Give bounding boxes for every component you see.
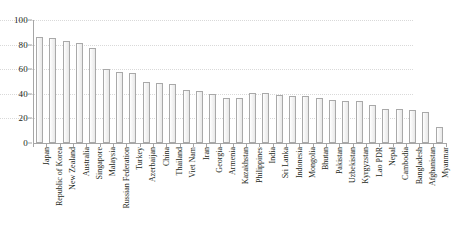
x-label-slot: Afghanistan bbox=[419, 147, 432, 242]
bar[interactable] bbox=[196, 91, 203, 143]
bar[interactable] bbox=[223, 98, 230, 144]
x-label-slot: Indonesia bbox=[286, 147, 299, 242]
x-label-slot: Cambodia bbox=[393, 147, 406, 242]
x-label-slot: Viet Nam bbox=[180, 147, 193, 242]
x-label-slot: Uzbekistan bbox=[339, 147, 352, 242]
y-tick-label: 0 bbox=[0, 138, 28, 148]
bar[interactable] bbox=[129, 73, 136, 143]
bar[interactable] bbox=[209, 94, 216, 143]
bar[interactable] bbox=[409, 110, 416, 143]
x-label-slot: Armenia bbox=[220, 147, 233, 242]
bar-slot bbox=[73, 20, 86, 143]
bar-slot bbox=[193, 20, 206, 143]
bar-slot bbox=[166, 20, 179, 143]
bar-slot bbox=[86, 20, 99, 143]
bar-slot bbox=[140, 20, 153, 143]
bar[interactable] bbox=[169, 84, 176, 143]
x-label-slot: Lao PDR bbox=[366, 147, 379, 242]
bar[interactable] bbox=[289, 96, 296, 143]
x-label-slot: Pakistan bbox=[326, 147, 339, 242]
bar-slot bbox=[339, 20, 352, 143]
x-label-slot: Iran bbox=[193, 147, 206, 242]
bar-slot bbox=[392, 20, 405, 143]
bar[interactable] bbox=[116, 72, 123, 143]
bar-slot bbox=[233, 20, 246, 143]
bar-slot bbox=[353, 20, 366, 143]
bar[interactable] bbox=[302, 96, 309, 143]
bar[interactable] bbox=[49, 38, 56, 143]
bar[interactable] bbox=[329, 100, 336, 143]
x-label-slot: Bhutan bbox=[313, 147, 326, 242]
y-tick-label: 60 bbox=[0, 64, 28, 74]
bar-slot bbox=[299, 20, 312, 143]
y-tick-mark bbox=[28, 143, 32, 144]
y-tick-label: 20 bbox=[0, 113, 28, 123]
bar-slot bbox=[46, 20, 59, 143]
x-label-slot: Bangladesh bbox=[406, 147, 419, 242]
bar[interactable] bbox=[276, 95, 283, 143]
x-label-slot: India bbox=[259, 147, 272, 242]
x-label-slot: Georgia bbox=[206, 147, 219, 242]
bar-slot bbox=[286, 20, 299, 143]
x-axis-labels: JapanRepublic of KoreaNew ZealandAustral… bbox=[33, 147, 446, 242]
x-label-slot: Mongolia bbox=[299, 147, 312, 242]
bar[interactable] bbox=[89, 48, 96, 143]
bar[interactable] bbox=[342, 101, 349, 143]
bar[interactable] bbox=[63, 41, 70, 143]
x-label-slot: New Zealand bbox=[60, 147, 73, 242]
bar-slot bbox=[153, 20, 166, 143]
x-label-slot: Singapore bbox=[86, 147, 99, 242]
bar-slot bbox=[419, 20, 432, 143]
bar-slot bbox=[326, 20, 339, 143]
bar[interactable] bbox=[262, 93, 269, 143]
y-tick-mark bbox=[28, 44, 32, 45]
y-tick-label: 80 bbox=[0, 40, 28, 50]
bar[interactable] bbox=[143, 82, 150, 144]
bar-slot bbox=[113, 20, 126, 143]
bar[interactable] bbox=[422, 112, 429, 143]
x-label-slot: Malaysia bbox=[100, 147, 113, 242]
bar[interactable] bbox=[396, 109, 403, 143]
bar[interactable] bbox=[436, 127, 443, 143]
x-label-slot: Australia bbox=[73, 147, 86, 242]
x-label-slot: Philippines bbox=[246, 147, 259, 242]
bar[interactable] bbox=[236, 98, 243, 144]
bar-slot bbox=[313, 20, 326, 143]
bar[interactable] bbox=[36, 37, 43, 143]
x-tick-label: Myanmar bbox=[439, 147, 452, 178]
y-tick-mark bbox=[28, 93, 32, 94]
x-label-slot: Nepal bbox=[379, 147, 392, 242]
bar-slot bbox=[366, 20, 379, 143]
bar-slot bbox=[33, 20, 46, 143]
x-label-slot: Kazakhstan bbox=[233, 147, 246, 242]
bar-slot bbox=[246, 20, 259, 143]
bar-series bbox=[33, 20, 446, 143]
x-label-slot: Azerbaijan bbox=[140, 147, 153, 242]
bar-chart: 020406080100 JapanRepublic of KoreaNew Z… bbox=[0, 0, 452, 244]
bar-slot bbox=[100, 20, 113, 143]
bar-slot bbox=[273, 20, 286, 143]
bar[interactable] bbox=[183, 90, 190, 143]
x-label-slot: Kyrgyzstan bbox=[353, 147, 366, 242]
bar[interactable] bbox=[76, 43, 83, 143]
bar[interactable] bbox=[382, 109, 389, 143]
bar-slot bbox=[126, 20, 139, 143]
bar-slot bbox=[60, 20, 73, 143]
bar[interactable] bbox=[103, 69, 110, 143]
x-label-slot: Thailand bbox=[166, 147, 179, 242]
bar-slot bbox=[259, 20, 272, 143]
y-tick-mark bbox=[28, 20, 32, 21]
bar-slot bbox=[206, 20, 219, 143]
bar[interactable] bbox=[156, 83, 163, 143]
x-label-slot: Turkey bbox=[126, 147, 139, 242]
y-tick-label: 40 bbox=[0, 89, 28, 99]
x-label-slot: Republic of Korea bbox=[46, 147, 59, 242]
x-label-slot: Myanmar bbox=[433, 147, 446, 242]
bar[interactable] bbox=[356, 101, 363, 143]
bar-slot bbox=[219, 20, 232, 143]
bar[interactable] bbox=[249, 93, 256, 143]
bar-slot bbox=[406, 20, 419, 143]
bar[interactable] bbox=[369, 105, 376, 143]
x-label-slot: Japan bbox=[33, 147, 46, 242]
bar[interactable] bbox=[316, 98, 323, 144]
